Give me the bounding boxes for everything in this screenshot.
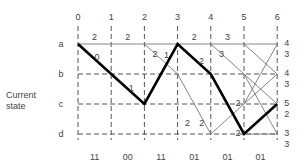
- branch-metric-label: 2: [152, 49, 157, 59]
- branch-metric-label: 2: [92, 32, 97, 42]
- survivor-path: [78, 44, 277, 134]
- final-metric-label: 5: [284, 98, 289, 108]
- time-step-label: 2: [142, 12, 147, 22]
- final-metric-label: 4: [284, 68, 289, 78]
- time-step-label: 4: [208, 12, 213, 22]
- received-symbol-label: 01: [222, 152, 232, 162]
- received-symbol-label: 00: [123, 152, 133, 162]
- branch-line: [144, 44, 177, 74]
- time-step-label: 6: [275, 12, 280, 22]
- time-step-label: 0: [75, 12, 80, 22]
- final-metric-label: 3: [284, 139, 289, 149]
- path-metric-label: 0: [94, 52, 99, 62]
- received-symbol-label: 01: [256, 152, 266, 162]
- branch-line: [244, 44, 277, 74]
- path-metric-label: 1: [164, 50, 169, 60]
- state-label: a: [58, 39, 63, 49]
- state-label: c: [59, 99, 64, 109]
- final-metric-label: 4: [284, 38, 289, 48]
- trellis-diagram: 0123456abcd22232230112222434352331100110…: [0, 0, 308, 167]
- path-metric-label: 2: [235, 98, 240, 108]
- path-metric-label: 2: [235, 128, 240, 138]
- branch-line: [211, 44, 244, 74]
- received-symbol-label: 11: [156, 152, 165, 162]
- final-metric-label: 3: [284, 49, 289, 59]
- branch-metric-label: 2: [192, 32, 197, 42]
- time-step-label: 5: [241, 12, 246, 22]
- path-metric-label: 1: [129, 83, 134, 93]
- final-metric-label: 3: [284, 79, 289, 89]
- time-step-label: 3: [175, 12, 180, 22]
- branch-metric-label: 2: [199, 118, 204, 128]
- state-label: b: [58, 69, 63, 79]
- branch-metric-label: 3: [219, 49, 224, 59]
- branch-metric-label: 2: [125, 32, 130, 42]
- received-symbol-label: 11: [90, 152, 99, 162]
- time-step-label: 1: [109, 12, 114, 22]
- state-label: d: [58, 129, 63, 139]
- final-metric-label: 2: [284, 109, 289, 119]
- path-metric-label: 2: [199, 56, 204, 66]
- received-symbol-label: 01: [189, 152, 199, 162]
- final-metric-label: 3: [284, 128, 289, 138]
- branch-metric-label: 3: [225, 32, 230, 42]
- branch-metric-label: 2: [185, 118, 190, 128]
